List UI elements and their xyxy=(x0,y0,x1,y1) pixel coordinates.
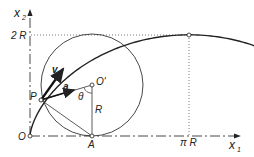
angle-theta-arc xyxy=(84,88,92,94)
radius-label: R xyxy=(95,104,102,115)
x1-axis-label: x xyxy=(228,138,236,152)
point-p xyxy=(39,98,43,102)
angle-label: θ xyxy=(78,91,84,102)
cycloid-diagram: x 2 x 1 2 R π R O P A O' R θ v a xyxy=(0,0,254,157)
chord-p-a xyxy=(41,100,92,136)
point-o-prime xyxy=(90,83,94,87)
point-top xyxy=(187,33,191,37)
two-r-label: 2 R xyxy=(10,30,27,41)
pi-r-label: π R xyxy=(180,137,197,148)
point-p-label: P xyxy=(30,91,37,102)
point-origin xyxy=(28,134,32,138)
x2-axis-subscript: 2 xyxy=(21,14,26,21)
point-a-label: A xyxy=(87,139,95,150)
acceleration-label: a xyxy=(63,81,69,92)
point-a xyxy=(90,134,94,138)
velocity-label: v xyxy=(52,64,59,75)
x1-axis-subscript: 1 xyxy=(237,146,241,153)
x2-axis-label: x xyxy=(13,6,21,20)
center-label: O' xyxy=(96,76,107,87)
origin-label: O xyxy=(18,131,26,142)
